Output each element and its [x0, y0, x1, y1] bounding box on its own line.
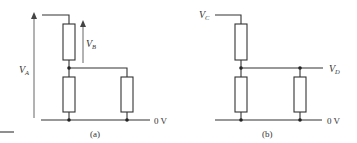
caption-b: (b)	[262, 129, 273, 139]
vb-arrowhead-icon	[80, 20, 86, 27]
panel-a: VA VB 0 V (a)	[19, 12, 168, 139]
vb-label: VB	[86, 38, 96, 50]
resistor-bottom-a	[63, 77, 75, 112]
panel-b: VC VD 0 V (b)	[199, 9, 341, 139]
ground-label-a: 0 V	[154, 116, 168, 126]
resistor-bottom-b	[235, 77, 247, 112]
resistor-top-b	[235, 24, 247, 60]
top-wire-a	[42, 15, 69, 24]
ground-node-1-b	[239, 118, 243, 122]
circuit-diagram: VA VB 0 V (a) VC VD 0 V (b)	[0, 0, 357, 143]
ground-label-b: 0 V	[327, 116, 341, 126]
resistor-top-a	[63, 24, 75, 60]
va-arrowhead-icon	[31, 12, 37, 19]
va-label: VA	[19, 64, 29, 76]
top-wire-b	[215, 15, 241, 24]
vd-label: VD	[329, 63, 340, 75]
resistor-load-a	[121, 77, 133, 112]
ground-node-2-b	[298, 118, 302, 122]
resistor-load-b	[294, 77, 306, 112]
vc-label: VC	[199, 9, 210, 21]
ground-node-1-a	[67, 118, 71, 122]
branch-wire-a	[69, 68, 127, 77]
caption-a: (a)	[90, 129, 100, 139]
ground-node-2-a	[125, 118, 129, 122]
